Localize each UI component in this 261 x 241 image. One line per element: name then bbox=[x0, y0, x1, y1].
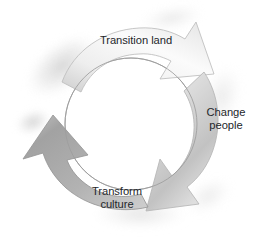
cycle-diagram-graphic bbox=[0, 0, 261, 241]
cycle-diagram: Transition land Changepeople Transformcu… bbox=[0, 0, 261, 241]
